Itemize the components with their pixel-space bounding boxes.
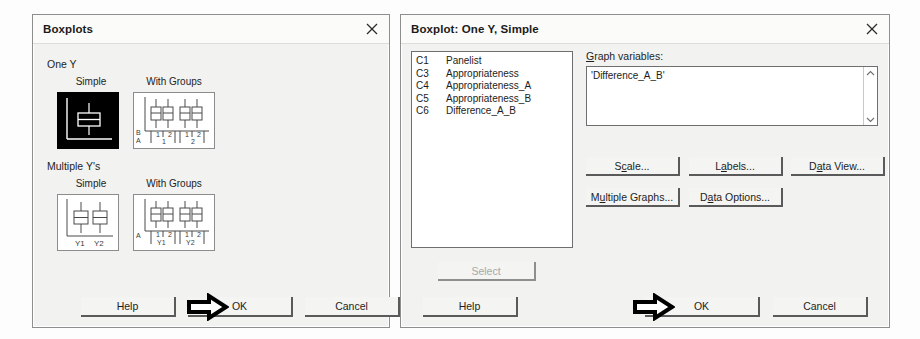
list-item[interactable]: C4 Appropriateness_A	[412, 80, 572, 93]
svg-text:Y2: Y2	[186, 239, 195, 246]
ok-button-label: OK	[232, 300, 247, 312]
close-icon[interactable]	[361, 19, 383, 39]
svg-text:2: 2	[168, 131, 172, 138]
variable-name: Appropriateness_A	[446, 80, 531, 93]
option-label-one-y-with-groups: With Groups	[129, 76, 219, 87]
list-item[interactable]: C3 Appropriateness	[412, 68, 572, 81]
help-button-label: Help	[117, 300, 139, 312]
graph-variables-input[interactable]: 'Difference_A_B'	[586, 66, 878, 126]
option-label-one-y-simple: Simple	[55, 76, 127, 87]
variable-name: Appropriateness_B	[446, 93, 531, 106]
svg-text:1: 1	[156, 231, 160, 238]
variable-id: C1	[416, 55, 446, 68]
svg-text:B: B	[136, 129, 141, 136]
list-item[interactable]: C5 Appropriateness_B	[412, 93, 572, 106]
list-item[interactable]: C6 Difference_A_B	[412, 105, 572, 118]
ok-button-label: OK	[694, 300, 709, 312]
graph-variables-label: Graph variables:	[586, 50, 663, 62]
data-view-button[interactable]: Data View...	[791, 157, 885, 176]
group-label-one-y: One Y	[47, 58, 77, 70]
option-label-multiple-ys-simple: Simple	[55, 178, 127, 189]
boxplot-one-y-simple-body: C1 Panelist C3 Appropriateness C4 Approp…	[401, 44, 889, 328]
graph-variables-value: 'Difference_A_B'	[591, 70, 665, 81]
scale-button[interactable]: Scale...	[586, 157, 680, 176]
select-button-label: Select	[471, 265, 500, 277]
help-button-label: Help	[459, 300, 481, 312]
svg-text:2: 2	[168, 231, 172, 238]
svg-text:1: 1	[185, 231, 189, 238]
boxplot-one-y-simple-title: Boxplot: One Y, Simple	[411, 23, 861, 35]
annotation-arrow-icon	[633, 293, 675, 321]
svg-text:1: 1	[156, 131, 160, 138]
multiple-graphs-button[interactable]: Multiple Graphs...	[586, 188, 680, 207]
variable-name: Panelist	[446, 55, 482, 68]
help-button[interactable]: Help	[423, 297, 518, 317]
cancel-button-label: Cancel	[335, 300, 368, 312]
group-label-multiple-ys: Multiple Y's	[47, 160, 100, 172]
svg-text:2: 2	[197, 131, 201, 138]
svg-text:1: 1	[185, 131, 189, 138]
graph-variables-label-rest: raph variables:	[594, 50, 663, 62]
labels-button[interactable]: Labels...	[689, 157, 783, 176]
svg-text:Y2: Y2	[94, 239, 104, 248]
chevron-up-icon[interactable]	[864, 67, 877, 79]
variable-id: C6	[416, 105, 446, 118]
boxplots-dialog: Boxplots One Y Simple With Groups	[32, 14, 390, 328]
chevron-down-icon[interactable]	[864, 113, 877, 125]
option-label-multiple-ys-with-groups: With Groups	[129, 178, 219, 189]
variable-name: Appropriateness	[446, 68, 519, 81]
cancel-button-label: Cancel	[803, 300, 836, 312]
variable-id: C4	[416, 80, 446, 93]
scale-button-label: Scale...	[614, 160, 649, 172]
variable-list[interactable]: C1 Panelist C3 Appropriateness C4 Approp…	[411, 51, 573, 248]
svg-text:A: A	[136, 137, 141, 144]
graph-variables-scrollbar[interactable]	[863, 67, 877, 125]
svg-text:2: 2	[191, 138, 195, 145]
svg-text:2: 2	[197, 231, 201, 238]
data-view-button-label: Data View...	[809, 160, 865, 172]
data-options-button-label: Data Options...	[700, 191, 770, 203]
cancel-button[interactable]: Cancel	[773, 297, 868, 317]
boxplots-titlebar: Boxplots	[33, 15, 389, 44]
boxplots-body: One Y Simple With Groups	[33, 44, 389, 328]
boxplots-title: Boxplots	[43, 23, 361, 35]
list-item[interactable]: C1 Panelist	[412, 55, 572, 68]
multiple-graphs-button-label: Multiple Graphs...	[591, 191, 673, 203]
svg-text:Y1: Y1	[75, 239, 85, 248]
select-button[interactable]: Select	[438, 262, 536, 281]
variable-name: Difference_A_B	[446, 105, 516, 118]
labels-button-label: Labels...	[715, 160, 755, 172]
svg-text:A: A	[136, 232, 141, 239]
cancel-button[interactable]: Cancel	[305, 297, 400, 317]
close-icon[interactable]	[861, 19, 883, 39]
boxplot-one-y-simple-titlebar: Boxplot: One Y, Simple	[401, 15, 889, 44]
option-thumb-multiple-ys-with-groups[interactable]: 12 12 Y1Y2 A	[133, 194, 215, 251]
data-options-button[interactable]: Data Options...	[689, 188, 783, 207]
option-thumb-multiple-ys-simple[interactable]: Y1Y2	[57, 194, 119, 251]
annotation-arrow-icon	[187, 293, 229, 321]
option-thumb-one-y-simple[interactable]	[57, 92, 119, 149]
option-thumb-one-y-with-groups[interactable]: 12 12 12 BA	[133, 92, 215, 149]
boxplot-one-y-simple-dialog: Boxplot: One Y, Simple C1 Panelist C3 Ap…	[400, 14, 890, 328]
variable-id: C3	[416, 68, 446, 81]
variable-id: C5	[416, 93, 446, 106]
svg-text:Y1: Y1	[157, 239, 166, 246]
help-button[interactable]: Help	[81, 297, 176, 317]
svg-text:1: 1	[162, 138, 166, 145]
